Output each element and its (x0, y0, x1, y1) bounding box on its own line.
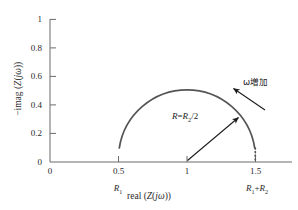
y-title-close: )) (13, 62, 23, 68)
y-title-z: Z (13, 81, 23, 86)
plot-canvas (0, 0, 298, 210)
x-tick-label-0: 0 (30, 167, 70, 176)
x-title-close: )) (165, 191, 171, 201)
y-title-j: j (13, 75, 23, 78)
radius-arrow (188, 118, 239, 161)
y-tick-label-1: 1 (12, 15, 42, 24)
radius-annotation: R=R2/2 (172, 112, 198, 123)
x-axis-title: real (Z(jω)) (0, 192, 298, 202)
x-axis-ticks (119, 156, 256, 162)
omega-direction-arrow (234, 89, 266, 111)
y-title-open: ( (13, 77, 23, 80)
radius-div: /2 (191, 111, 198, 121)
y-axis-ticks (50, 19, 56, 133)
x-title-omega: ω (158, 191, 165, 201)
nyquist-plot-figure: 1 0.8 0.6 0.4 0.2 0 0 0.5 1 1.5 R1 R1+R2… (0, 0, 298, 210)
y-tick-label-0: 0 (12, 158, 42, 167)
y-title-omega: ω (13, 68, 23, 75)
y-axis-title: −imag (Z(jω)) (14, 24, 24, 154)
omega-increasing-annotation: ω増加 (243, 78, 268, 87)
x-tick-label-1.5: 1.5 (236, 167, 276, 176)
x-tick-label-0.5: 0.5 (99, 167, 139, 176)
x-title-prefix: real ( (127, 191, 147, 201)
y-title-prefix: −imag ( (13, 86, 23, 116)
x-tick-label-1: 1 (167, 167, 207, 176)
